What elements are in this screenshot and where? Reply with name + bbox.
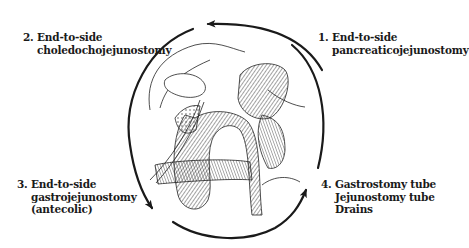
gallbladder [164,74,205,98]
step-text-line: End-to-side [332,31,397,43]
step-text-line: Gastrostomy tube [335,178,436,190]
step-number: 1. [318,31,332,44]
step-text-line: (antecolic) [17,203,137,216]
step-text-line: End-to-side [31,178,96,190]
step-number: 4. [321,178,335,191]
step-text-line: End-to-side [37,31,102,43]
arrow-top-icon [208,24,322,70]
transverse-colon [155,160,252,184]
step-1-label: 1.End-to-side pancreaticojejunostomy [318,31,469,56]
step-text-line: Jejunostomy tube [321,191,436,204]
step-text-line: choledochojejunostomy [23,44,171,57]
anatomy-illustration [149,43,305,215]
step-3-label: 3.End-to-side gastrojejunostomy (antecol… [17,178,137,216]
step-2-label: 2.End-to-side choledochojejunostomy [23,31,171,56]
step-4-label: 4.Gastrostomy tube Jejunostomy tube Drai… [321,178,436,216]
step-text-line: pancreaticojejunostomy [318,44,469,57]
step-number: 2. [23,31,37,44]
step-text-line: Drains [321,203,436,216]
step-text-line: gastrojejunostomy [17,191,137,204]
step-number: 3. [17,178,31,191]
stomach-body [258,115,285,168]
jejunostomy-tube [262,177,300,185]
pancreas-remnant [238,64,288,119]
